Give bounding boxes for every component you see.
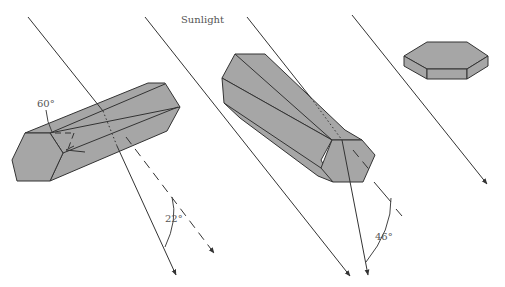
- sunlight-ray-3-undeviated-3: [396, 209, 402, 216]
- angle-label-22: 22°: [165, 213, 183, 224]
- angle-label-46: 46°: [375, 231, 393, 242]
- halo-refraction-diagram: [0, 0, 505, 287]
- sunlight-ray-1-refracted: [117, 146, 176, 275]
- sunlight-ray-1-incident: [28, 17, 103, 111]
- angle-arc-46: [366, 198, 391, 262]
- hexagonal-end-face: [321, 140, 375, 182]
- sunlight-ray-3-undeviated-2: [374, 182, 391, 202]
- long-column-crystal-tilted: [222, 54, 375, 182]
- angle-label-60: 60°: [37, 98, 55, 109]
- plate-crystal: [404, 42, 488, 79]
- sunlight-label: Sunlight: [181, 14, 224, 25]
